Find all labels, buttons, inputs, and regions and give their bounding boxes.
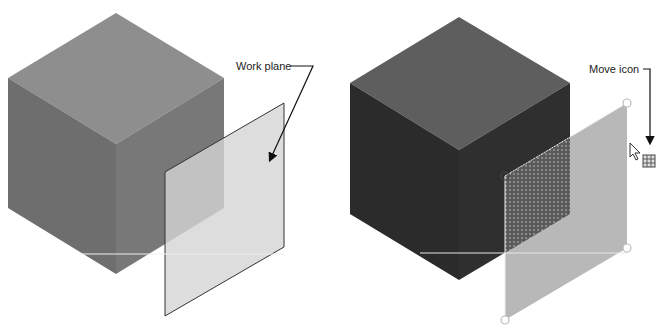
grip-bottom-left[interactable]: [501, 316, 509, 324]
move-icon-leader-arrow: [643, 69, 650, 143]
grip-top-right[interactable]: [623, 99, 631, 107]
move-icon-label: Move icon: [589, 63, 639, 75]
move-icon[interactable]: [643, 155, 655, 167]
left-panel: Work plane: [8, 13, 313, 316]
work-plane-label: Work plane: [236, 60, 291, 72]
right-panel: Move icon: [350, 17, 655, 324]
cursor-arrow-icon: [630, 143, 640, 160]
grip-bottom-right[interactable]: [623, 244, 631, 252]
work-plane-diagram: Work plane Move icon: [0, 0, 668, 334]
